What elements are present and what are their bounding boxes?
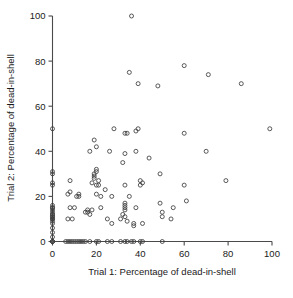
- data-point: [112, 127, 116, 131]
- x-tick-label: 20: [91, 248, 102, 259]
- data-point: [158, 201, 162, 205]
- data-point: [156, 84, 160, 88]
- data-point: [119, 217, 123, 221]
- data-point: [184, 199, 188, 203]
- x-tick-label: 80: [223, 248, 234, 259]
- data-point: [127, 194, 131, 198]
- data-point: [127, 70, 131, 74]
- y-tick-label: 80: [35, 56, 46, 67]
- y-tick-label: 20: [35, 191, 46, 202]
- data-point: [88, 149, 92, 153]
- data-point: [130, 14, 134, 18]
- data-point: [171, 206, 175, 210]
- data-point: [206, 73, 210, 77]
- data-point: [160, 210, 164, 214]
- data-point: [105, 217, 109, 221]
- data-point: [90, 208, 94, 212]
- x-axis-tick-labels: 020406080100: [50, 248, 280, 259]
- data-point: [134, 149, 138, 153]
- y-tick-label: 60: [35, 101, 46, 112]
- y-tick-label: 100: [30, 10, 46, 21]
- data-point: [68, 206, 72, 210]
- x-tick-label: 60: [179, 248, 190, 259]
- data-point: [169, 217, 173, 221]
- data-point: [141, 221, 145, 225]
- data-point: [72, 206, 76, 210]
- x-axis-title: Trial 1: Percentage of dead-in-shell: [88, 266, 236, 277]
- data-point: [204, 149, 208, 153]
- data-point: [158, 172, 162, 176]
- y-axis-title: Trial 2: Percentage of dead-in-shell: [5, 54, 16, 202]
- data-point: [134, 206, 138, 210]
- data-points-layer: [51, 14, 272, 244]
- y-tick-label: 0: [40, 236, 45, 247]
- x-tick-label: 0: [50, 248, 55, 259]
- data-point: [90, 181, 94, 185]
- data-point: [123, 183, 127, 187]
- plot-canvas: 020406080100 020406080100 Trial 1: Perce…: [0, 0, 293, 298]
- data-point: [224, 179, 228, 183]
- data-point: [99, 194, 103, 198]
- scatter-plot-figure: 020406080100 020406080100 Trial 1: Perce…: [0, 0, 293, 298]
- data-point: [99, 206, 103, 210]
- x-tick-label: 100: [264, 248, 280, 259]
- data-point: [239, 82, 243, 86]
- data-point: [108, 149, 112, 153]
- data-point: [182, 131, 186, 135]
- data-point: [182, 64, 186, 68]
- data-point: [182, 183, 186, 187]
- data-point: [110, 221, 114, 225]
- data-point: [94, 192, 98, 196]
- data-point: [97, 179, 101, 183]
- data-point: [103, 188, 107, 192]
- y-tick-label: 40: [35, 146, 46, 157]
- data-point: [94, 145, 98, 149]
- data-point: [147, 156, 151, 160]
- data-point: [68, 179, 72, 183]
- data-point: [110, 194, 114, 198]
- data-point: [121, 161, 125, 165]
- data-point: [136, 82, 140, 86]
- data-point: [66, 217, 70, 221]
- axes: [53, 16, 273, 242]
- data-point: [92, 138, 96, 142]
- x-tick-label: 40: [135, 248, 146, 259]
- y-axis-tick-labels: 020406080100: [30, 10, 46, 247]
- data-point: [70, 217, 74, 221]
- data-point: [123, 152, 127, 156]
- data-point: [268, 127, 272, 131]
- data-point: [125, 219, 129, 223]
- data-point: [160, 215, 164, 219]
